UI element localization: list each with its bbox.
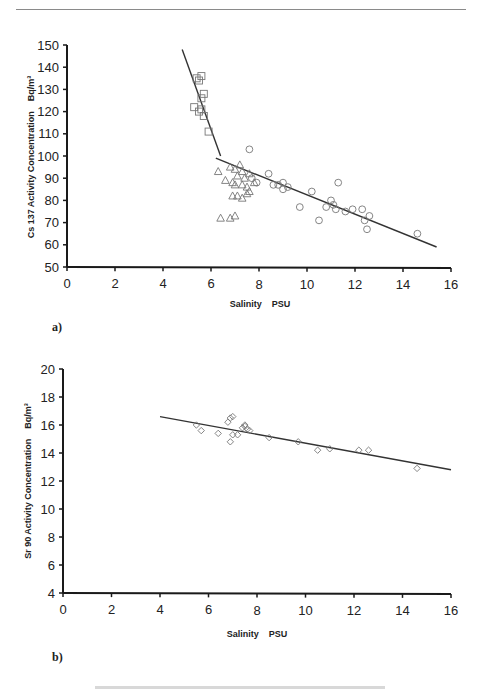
chart-a-cs137: 5060708090100110120130140150024681012141… — [26, 38, 458, 335]
x-tick-label: 8 — [253, 603, 260, 618]
square-marker — [191, 104, 198, 111]
y-tick-label: 50 — [45, 260, 59, 275]
y-tick-label: 80 — [45, 193, 59, 208]
x-tick-label: 0 — [59, 602, 66, 617]
diamond-marker — [414, 465, 420, 471]
triangle-marker — [217, 214, 225, 221]
circle-marker — [265, 170, 272, 177]
chart-a-x-axis-title: SalinityPSU — [230, 299, 291, 309]
triangle-marker — [234, 172, 242, 179]
y-tick-label: 14 — [41, 446, 55, 461]
y-tick-label: 6 — [48, 558, 55, 573]
x-tick-label: 6 — [207, 276, 214, 291]
x-tick-label: 4 — [159, 276, 166, 291]
chart-a-axes: 5060708090100110120130140150024681012141… — [37, 38, 458, 293]
square-marker — [198, 73, 205, 80]
diamond-marker — [198, 427, 204, 433]
x-tick-label: 0 — [63, 276, 70, 291]
x-tick-label: 16 — [444, 603, 458, 618]
diamond-marker — [215, 430, 221, 436]
triangle-marker — [243, 190, 251, 197]
chart-a-y-axis-title: Cs 137 Activity ConcentrationBq/m³ — [26, 76, 36, 239]
x-tick-label: 10 — [298, 603, 312, 618]
x-tick-label: 16 — [444, 277, 458, 292]
circle-marker — [246, 146, 253, 153]
panel-label-a: a) — [52, 320, 62, 334]
x-tick-label: 12 — [348, 277, 362, 292]
square-marker — [200, 90, 207, 97]
x-tick-label: 4 — [156, 602, 163, 617]
circle-marker — [296, 204, 303, 211]
x-tick-label: 14 — [395, 603, 409, 618]
circle-marker — [316, 217, 323, 224]
regression-line — [160, 417, 451, 470]
circle-marker — [323, 204, 330, 211]
y-tick-label: 150 — [37, 38, 59, 53]
circle-marker — [364, 226, 371, 233]
triangle-marker — [214, 168, 222, 175]
x-tick-label: 8 — [255, 277, 262, 292]
y-tick-label: 120 — [37, 104, 59, 119]
x-tick-label: 2 — [108, 602, 115, 617]
y-tick-label: 4 — [48, 586, 55, 601]
x-tick-label: 6 — [205, 602, 212, 617]
y-tick-label: 12 — [41, 474, 55, 489]
x-tick-label: 2 — [111, 276, 118, 291]
circle-marker — [349, 206, 356, 213]
y-tick-label: 20 — [41, 362, 55, 377]
circle-marker — [366, 213, 373, 220]
square-marker — [196, 108, 203, 115]
figure: 5060708090100110120130140150024681012141… — [0, 0, 481, 689]
y-tick-label: 8 — [48, 530, 55, 545]
chart-b-points — [193, 413, 420, 471]
y-tick-label: 16 — [41, 418, 55, 433]
y-tick-label: 18 — [41, 390, 55, 405]
y-tick-label: 70 — [45, 215, 59, 230]
triangle-marker — [231, 181, 239, 188]
circle-marker — [359, 206, 366, 213]
chart-b-fit-lines — [160, 417, 451, 470]
triangle-marker — [222, 176, 230, 183]
chart-a-fit-lines — [182, 49, 436, 247]
y-tick-label: 130 — [37, 82, 59, 97]
chart-b-axes: 4681012141618200246810121416 — [41, 362, 459, 619]
y-tick-label: 90 — [45, 171, 59, 186]
triangle-marker — [241, 174, 249, 181]
chart-b-x-axis-title: SalinityPSU — [227, 629, 288, 639]
x-tick-label: 12 — [347, 603, 361, 618]
y-tick-label: 10 — [41, 502, 55, 517]
x-tick-label: 14 — [396, 277, 410, 292]
circle-marker — [414, 230, 421, 237]
diamond-marker — [314, 447, 320, 453]
regression-line — [182, 49, 220, 156]
square-marker — [196, 77, 203, 84]
circle-marker — [308, 188, 315, 195]
circle-marker — [335, 179, 342, 186]
panel-label-b: b) — [52, 650, 63, 664]
chart-a-points — [191, 73, 421, 238]
x-tick-label: 10 — [300, 277, 314, 292]
diamond-marker — [227, 439, 233, 445]
y-tick-label: 60 — [45, 237, 59, 252]
y-tick-label: 110 — [38, 126, 59, 141]
diamond-marker — [365, 447, 371, 453]
chart-b-y-axis-title: Sr 90 Activity ConcentrationBq/m³ — [23, 403, 33, 559]
diamond-marker — [225, 419, 231, 425]
chart-b-sr90: 4681012141618200246810121416 Sr 90 Activ… — [23, 362, 458, 665]
y-tick-label: 100 — [37, 149, 59, 164]
y-tick-label: 140 — [37, 60, 59, 75]
